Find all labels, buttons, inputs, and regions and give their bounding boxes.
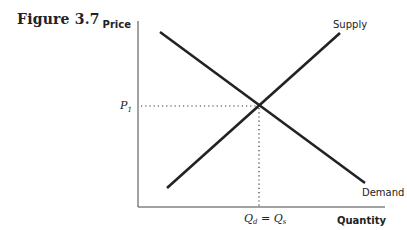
equals-sign: = [258,212,274,225]
supply-demand-chart: Price Quantity Supply Demand P1 Qd = Qs [0,0,407,230]
p-sub: 1 [127,106,131,114]
qd-main: Q [244,212,253,225]
demand-label: Demand [362,187,404,198]
quantity-tick-label: Qd = Qs [244,212,287,226]
qs-main: Q [274,212,283,225]
y-axis-title: Price [103,19,132,30]
qs-sub: s [283,218,287,226]
supply-label: Supply [333,19,367,30]
x-axis-title: Quantity [337,215,386,226]
demand-curve [160,32,365,183]
price-tick-label: P1 [119,99,132,114]
